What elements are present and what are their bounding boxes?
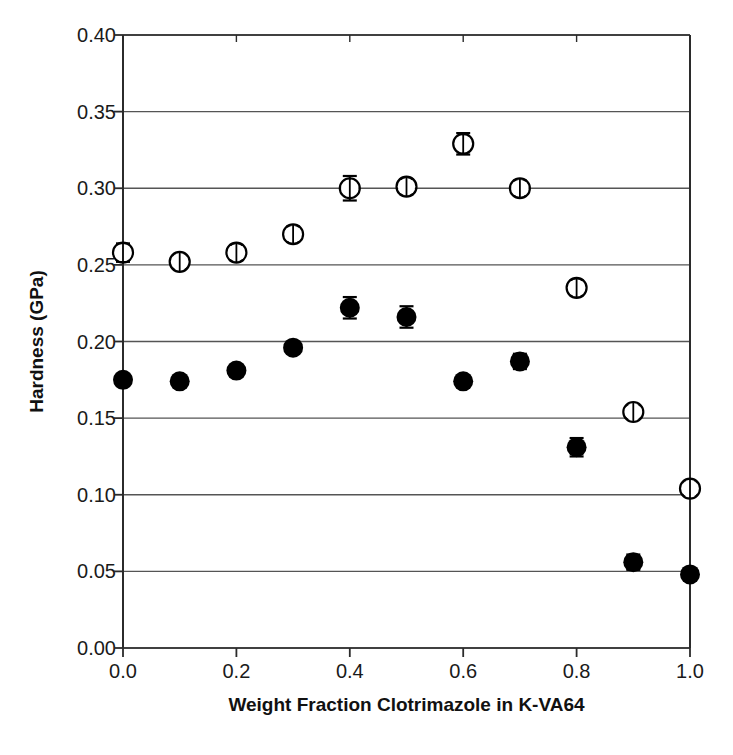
data-point[interactable]	[680, 479, 700, 499]
marker-filled-circle	[510, 351, 530, 371]
hardness-scatter-figure: Hardness (GPa) 0.000.050.100.150.200.250…	[0, 0, 733, 755]
data-point[interactable]	[340, 297, 360, 318]
data-point[interactable]	[567, 437, 587, 457]
data-point[interactable]	[113, 243, 133, 263]
x-tick-label: 0.0	[78, 660, 168, 683]
marker-filled-circle	[680, 564, 700, 584]
marker-filled-circle	[623, 552, 643, 572]
x-tick-label-group: 0.00.20.40.60.81.0	[0, 660, 733, 690]
data-point[interactable]	[453, 371, 473, 391]
data-point-group	[113, 133, 700, 584]
x-tick-label: 1.0	[645, 660, 733, 683]
series-filled-circle-series	[113, 297, 700, 584]
data-point[interactable]	[283, 338, 303, 358]
marker-filled-circle	[397, 307, 417, 327]
marker-filled-circle	[113, 370, 133, 390]
data-point[interactable]	[226, 361, 246, 381]
data-point[interactable]	[623, 402, 643, 422]
data-point[interactable]	[453, 133, 473, 154]
x-tick-label: 0.6	[418, 660, 508, 683]
data-point[interactable]	[340, 176, 360, 201]
gridline-group	[123, 35, 690, 648]
marker-filled-circle	[453, 371, 473, 391]
y-tick-mark-group	[114, 35, 123, 648]
data-point[interactable]	[680, 564, 700, 584]
data-point[interactable]	[510, 178, 530, 198]
data-point[interactable]	[397, 306, 417, 327]
data-point[interactable]	[397, 177, 417, 197]
data-point[interactable]	[567, 278, 587, 298]
data-point[interactable]	[226, 243, 246, 263]
marker-filled-circle	[226, 361, 246, 381]
cut-off-caption	[60, 742, 680, 754]
x-tick-mark-group	[123, 35, 690, 657]
data-point[interactable]	[510, 351, 530, 371]
marker-filled-circle	[340, 298, 360, 318]
plot-area	[0, 0, 733, 755]
marker-filled-circle	[170, 371, 190, 391]
x-axis-title: Weight Fraction Clotrimazole in K-VA64	[123, 694, 690, 716]
x-tick-label: 0.4	[305, 660, 395, 683]
data-point[interactable]	[113, 370, 133, 390]
x-tick-label: 0.2	[191, 660, 281, 683]
marker-filled-circle	[283, 338, 303, 358]
x-tick-label: 0.8	[532, 660, 622, 683]
data-point[interactable]	[170, 371, 190, 391]
data-point[interactable]	[170, 252, 190, 272]
marker-filled-circle	[567, 437, 587, 457]
data-point[interactable]	[283, 224, 303, 244]
data-point[interactable]	[623, 552, 643, 572]
